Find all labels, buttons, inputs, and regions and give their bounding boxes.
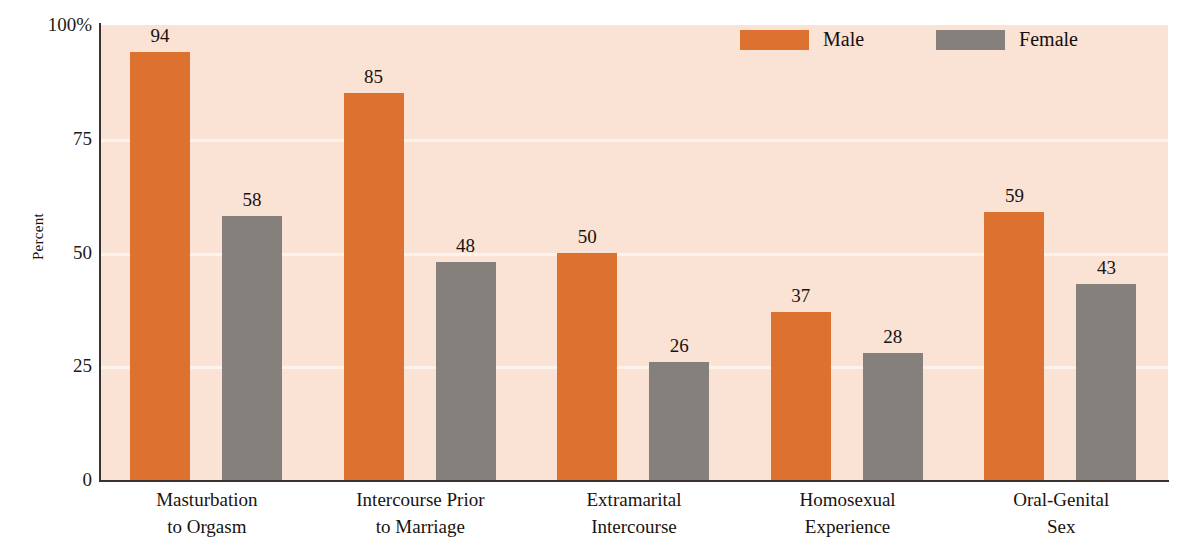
legend-swatch-female-icon <box>936 30 1005 50</box>
x-axis-label-line: Homosexual <box>741 487 955 514</box>
x-axis-label-line: Sex <box>954 514 1168 541</box>
bar-female-5[interactable]: 43 <box>1076 284 1136 480</box>
bar-rect <box>1076 284 1136 480</box>
legend-label: Male <box>823 28 864 51</box>
y-tick-label-25: 25 <box>73 356 92 375</box>
bar-chart-figure: Percent 100%7550250 94588548502637285943… <box>0 0 1188 560</box>
bar-female-3[interactable]: 26 <box>649 362 709 480</box>
legend-swatch-male-icon <box>740 30 809 50</box>
x-axis-label-line: Intercourse <box>527 514 741 541</box>
bar-value-label: 37 <box>753 286 849 305</box>
bar-value-label: 26 <box>631 336 727 355</box>
bar-group: 8548 <box>314 25 528 480</box>
x-axis-category-labels: Masturbationto OrgasmIntercourse Priorto… <box>100 487 1168 557</box>
y-axis-line <box>99 23 101 482</box>
bar-rect <box>436 262 496 480</box>
bar-rect <box>649 362 709 480</box>
bar-male-1[interactable]: 94 <box>130 52 190 480</box>
bar-value-label: 58 <box>204 190 300 209</box>
x-axis-line <box>99 480 1169 482</box>
bar-rect <box>222 216 282 480</box>
x-axis-label-line: Extramarital <box>527 487 741 514</box>
bar-female-2[interactable]: 48 <box>436 262 496 480</box>
legend-item-female[interactable]: Female <box>936 28 1078 51</box>
bar-male-5[interactable]: 59 <box>984 212 1044 480</box>
bar-group: 5943 <box>954 25 1168 480</box>
bar-value-label: 94 <box>112 26 208 45</box>
bar-value-label: 85 <box>326 67 422 86</box>
x-axis-label-line: to Orgasm <box>100 514 314 541</box>
bar-value-label: 48 <box>418 236 514 255</box>
x-axis-label-4: HomosexualExperience <box>741 487 955 541</box>
bar-rect <box>557 253 617 481</box>
bar-male-3[interactable]: 50 <box>557 253 617 481</box>
bar-rect <box>344 93 404 480</box>
bar-female-4[interactable]: 28 <box>863 353 923 480</box>
bar-group: 9458 <box>100 25 314 480</box>
plot-area: 94588548502637285943 <box>100 25 1168 480</box>
bar-value-label: 28 <box>845 327 941 346</box>
legend-item-male[interactable]: Male <box>740 28 864 51</box>
x-axis-label-line: to Marriage <box>314 514 528 541</box>
x-axis-label-1: Masturbationto Orgasm <box>100 487 314 541</box>
y-tick-label-50: 50 <box>73 243 92 262</box>
x-axis-label-line: Masturbation <box>100 487 314 514</box>
legend-label: Female <box>1019 28 1078 51</box>
bar-group: 5026 <box>527 25 741 480</box>
x-axis-label-3: ExtramaritalIntercourse <box>527 487 741 541</box>
bar-rect <box>863 353 923 480</box>
bar-rect <box>984 212 1044 480</box>
bar-group: 3728 <box>741 25 955 480</box>
x-axis-label-5: Oral-GenitalSex <box>954 487 1168 541</box>
bar-value-label: 50 <box>539 227 635 246</box>
x-axis-label-2: Intercourse Priorto Marriage <box>314 487 528 541</box>
x-axis-label-line: Intercourse Prior <box>314 487 528 514</box>
bar-male-2[interactable]: 85 <box>344 93 404 480</box>
bar-value-label: 43 <box>1058 258 1154 277</box>
y-tick-label-100: 100% <box>48 15 92 34</box>
bar-rect <box>771 312 831 480</box>
bar-value-label: 59 <box>966 186 1062 205</box>
x-axis-label-line: Experience <box>741 514 955 541</box>
y-axis-tick-labels: 100%7550250 <box>0 0 100 560</box>
y-tick-label-75: 75 <box>73 129 92 148</box>
bars-layer: 94588548502637285943 <box>100 25 1168 480</box>
bar-female-1[interactable]: 58 <box>222 216 282 480</box>
bar-rect <box>130 52 190 480</box>
y-tick-label-0: 0 <box>83 470 93 489</box>
legend: MaleFemale <box>740 28 1078 51</box>
x-axis-label-line: Oral-Genital <box>954 487 1168 514</box>
bar-male-4[interactable]: 37 <box>771 312 831 480</box>
